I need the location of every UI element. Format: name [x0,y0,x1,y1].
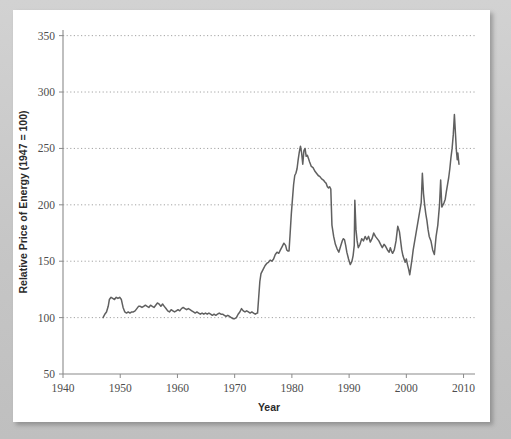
x-tick-label-1970: 1970 [223,382,246,394]
x-axis-title: Year [258,401,280,413]
y-tick-label-150: 150 [38,255,56,267]
x-tick-label-1940: 1940 [52,382,75,394]
y-tick-label-200: 200 [38,199,56,211]
y-tick-label-300: 300 [38,86,56,98]
x-tick-label-1960: 1960 [166,382,189,394]
x-tick-label-1950: 1950 [109,382,132,394]
y-tick-label-350: 350 [38,30,56,42]
x-tick-label-1990: 1990 [338,382,361,394]
y-tick-label-50: 50 [44,368,56,380]
figure-card: 50100150200250300350 1940195019601970198… [13,10,490,422]
y-axis-title: Relative Price of Energy (1947 = 100) [17,111,29,294]
y-tick-label-250: 250 [38,142,56,154]
y-tick-label-100: 100 [38,312,56,324]
x-tick-label-2000: 2000 [395,382,418,394]
x-tick-label-1980: 1980 [280,382,303,394]
energy-price-line-chart: 50100150200250300350 1940195019601970198… [13,10,490,422]
x-tick-label-2010: 2010 [452,382,475,394]
